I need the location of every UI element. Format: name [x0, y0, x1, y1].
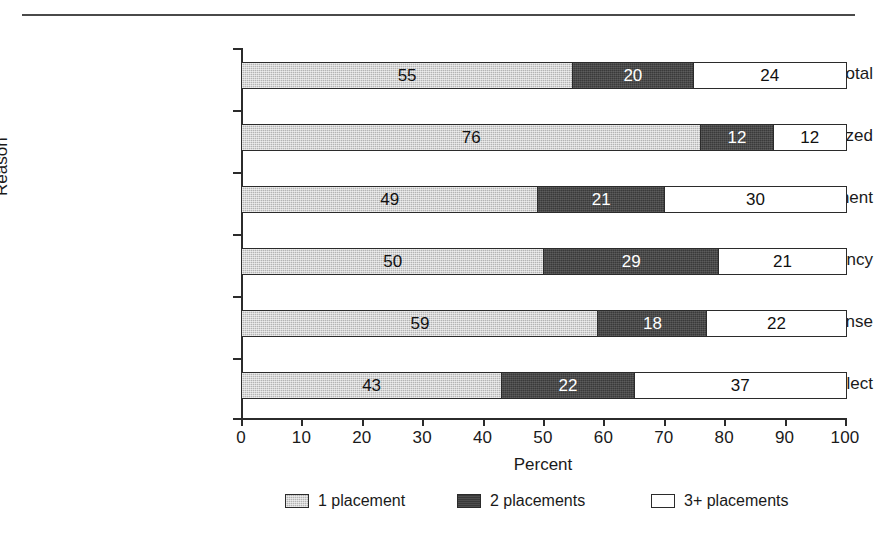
y-axis-tick: [233, 418, 241, 420]
x-axis-tick-label: 20: [352, 428, 371, 448]
bar-segment-3plus-placements: 30: [664, 186, 847, 213]
x-axis-tick: [422, 418, 424, 426]
bar-segment-1-placement: 76: [241, 124, 702, 151]
y-axis-title: Reason: [0, 137, 12, 196]
bar-segment-3plus-placements: 24: [693, 62, 848, 89]
bar-segment-2-placements: 22: [501, 372, 635, 399]
x-axis-tick: [301, 418, 303, 426]
bar-segment-1-placement: 50: [241, 248, 545, 275]
bar-segment-1-placement: 59: [241, 310, 599, 337]
x-axis-tick-label: 90: [775, 428, 794, 448]
x-axis-tick: [362, 418, 364, 426]
x-axis-tick-label: 10: [292, 428, 311, 448]
legend-swatch-icon-1-placement: [285, 494, 309, 508]
bar-segment-2-placements: 20: [572, 62, 694, 89]
bar-segment-3plus-placements: 21: [718, 248, 847, 275]
x-axis-tick-label: 100: [831, 428, 860, 448]
top-divider-rule: [22, 14, 855, 16]
y-axis-tick: [233, 358, 241, 360]
chart-figure: Reason Sample total 55 20 24 Uncategoriz…: [0, 0, 881, 542]
x-axis-tick-label: 50: [533, 428, 552, 448]
legend-item-2-placements: 2 placements: [457, 492, 585, 510]
y-axis-tick: [233, 48, 241, 50]
x-axis-tick: [483, 418, 485, 426]
bar-segment-2-placements: 18: [597, 310, 707, 337]
x-axis-tick-label: 70: [654, 428, 673, 448]
y-axis-tick: [233, 234, 241, 236]
x-axis-tick-label: 80: [715, 428, 734, 448]
legend-label: 2 placements: [490, 492, 585, 510]
x-axis-tick: [603, 418, 605, 426]
legend-swatch-icon-3plus-placements: [651, 494, 675, 508]
x-axis-tick: [785, 418, 787, 426]
bar-segment-1-placement: 43: [241, 372, 502, 399]
x-axis-tick-label: 30: [413, 428, 432, 448]
legend-item-3plus-placements: 3+ placements: [651, 492, 789, 510]
x-axis-tick: [543, 418, 545, 426]
y-axis-tick: [233, 296, 241, 298]
bar-segment-2-placements: 12: [700, 124, 774, 151]
y-axis-tick: [233, 110, 241, 112]
x-axis-tick-label: 60: [594, 428, 613, 448]
x-axis-tick-label: 40: [473, 428, 492, 448]
bar-segment-3plus-placements: 37: [634, 372, 847, 399]
chart-legend: 1 placement 2 placements 3+ placements: [0, 492, 881, 518]
y-axis-tick: [233, 172, 241, 174]
x-axis-title: Percent: [241, 455, 845, 475]
x-axis-tick: [845, 418, 847, 426]
x-axis-tick: [724, 418, 726, 426]
bar-segment-1-placement: 49: [241, 186, 539, 213]
bar-segment-1-placement: 55: [241, 62, 573, 89]
y-axis-line: [241, 48, 243, 420]
x-axis-tick-label: 0: [236, 428, 246, 448]
bar-segment-2-placements: 29: [543, 248, 720, 275]
legend-label: 3+ placements: [684, 492, 789, 510]
legend-swatch-icon-2-placements: [457, 494, 481, 508]
bar-segment-3plus-placements: 22: [706, 310, 847, 337]
x-axis-tick: [664, 418, 666, 426]
bar-segment-3plus-placements: 12: [773, 124, 848, 151]
legend-label: 1 placement: [318, 492, 405, 510]
legend-item-1-placement: 1 placement: [285, 492, 405, 510]
x-axis-tick: [241, 418, 243, 426]
bar-segment-2-placements: 21: [537, 186, 665, 213]
